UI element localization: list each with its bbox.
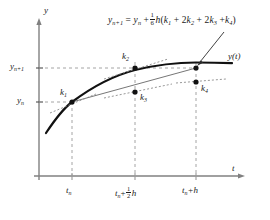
secant-line-k1-to-end xyxy=(72,68,196,102)
formula-callout-arrow xyxy=(197,32,224,66)
slope-label-k2-sub: 2 xyxy=(126,56,129,62)
t-axis-arrowhead xyxy=(238,173,245,178)
slope-label-k1-sub: 1 xyxy=(64,92,67,98)
t-tick-label-tn-half-h-plus: + xyxy=(120,188,125,198)
rk4-update-formula: yn+1 = yn +16h(k1 + 2k2 + 2k3 +k4) xyxy=(108,12,236,27)
t-tick-label-tn-plus-h-suffix: +h xyxy=(187,185,198,195)
y-tick-label-yn: yn xyxy=(17,96,24,105)
slope-label-k4: k4 xyxy=(201,84,208,93)
rk4-method-diagram: yn+1 = yn +16h(k1 + 2k2 + 2k3 +k4) y t y… xyxy=(0,0,270,220)
slope-label-k3: k3 xyxy=(140,93,147,102)
y-tick-label-yn-plus-1: yn+1 xyxy=(10,62,24,71)
vertical-guides xyxy=(72,62,196,176)
slope-label-k4-sub: 4 xyxy=(205,88,208,94)
t-tick-label-tn-sub: n xyxy=(69,190,72,196)
point-y-n-plus-1 xyxy=(193,65,198,70)
formula-k4-sub: 4 xyxy=(229,19,232,26)
formula-close-paren: ) xyxy=(232,15,235,25)
point-k2 xyxy=(132,65,137,70)
y-tick-label-yn-sub: n xyxy=(21,100,24,106)
y-axis-label: y xyxy=(44,6,48,15)
formula-k1-sub: 1 xyxy=(168,19,171,26)
formula-plus-1: + xyxy=(144,15,149,25)
formula-term-yn-sub: n xyxy=(138,19,141,26)
solution-curve xyxy=(46,63,232,134)
t-tick-label-fraction-one-half: 12 xyxy=(126,186,131,200)
formula-equals: = xyxy=(126,15,131,25)
point-k1 xyxy=(69,99,74,104)
slope-segment-k3 xyxy=(104,84,172,98)
formula-plus-2k2: + 2 xyxy=(174,15,187,25)
solution-curve-label-arg: (t) xyxy=(232,51,241,61)
formula-fraction-numerator: 1 xyxy=(150,12,156,19)
t-tick-label-tn-half-h-tail: h xyxy=(132,188,137,198)
slope-segments-group xyxy=(50,59,226,113)
formula-fraction-denominator: 6 xyxy=(150,19,156,27)
t-tick-label-tn: tn xyxy=(66,186,71,195)
t-tick-label-tn-half-h: tn+12h xyxy=(115,186,136,200)
formula-plus-2k3: + 2 xyxy=(197,15,210,25)
y-axis-arrowhead xyxy=(36,18,41,25)
t-axis-label-text: t xyxy=(232,163,235,173)
formula-k2-sub: 2 xyxy=(191,19,194,26)
y-axis-label-text: y xyxy=(44,5,48,15)
y-tick-label-yn-plus-1-sub: n+1 xyxy=(14,66,24,72)
slope-label-k2: k2 xyxy=(122,52,129,61)
formula-lhs-sub: n+1 xyxy=(112,19,123,26)
t-tick-fraction-denominator: 2 xyxy=(126,192,131,199)
slope-label-k3-sub: 3 xyxy=(144,97,147,103)
formula-fraction-one-sixth: 16 xyxy=(150,12,156,27)
formula-k3-sub: 3 xyxy=(214,19,217,26)
slope-label-k1: k1 xyxy=(60,88,67,97)
point-k4 xyxy=(193,79,198,84)
solution-curve-label: y(t) xyxy=(228,52,241,61)
t-axis-label: t xyxy=(232,164,235,173)
point-k3 xyxy=(132,89,137,94)
t-tick-label-tn-plus-h: tn+h xyxy=(182,186,198,195)
